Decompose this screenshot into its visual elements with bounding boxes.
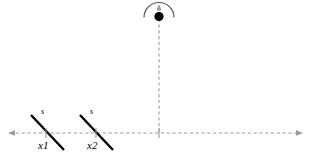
diagram-canvas: s x1 s x2 [0, 0, 310, 158]
center-point-dot [154, 12, 163, 21]
axis-arrow-right-icon [296, 130, 303, 135]
segment-x1-slope-label: s [41, 108, 44, 116]
diagram-svg [0, 0, 310, 158]
vertical-axis-arrow-top-icon [156, 4, 161, 11]
segment-x1-label: x1 [38, 140, 48, 151]
segment-x2-label: x2 [87, 140, 97, 151]
horizontal-axis-group [8, 130, 303, 135]
segment-x2-slope-label: s [90, 108, 93, 116]
axis-arrow-left-icon [8, 130, 15, 135]
vertical-axis-group [156, 4, 161, 138]
